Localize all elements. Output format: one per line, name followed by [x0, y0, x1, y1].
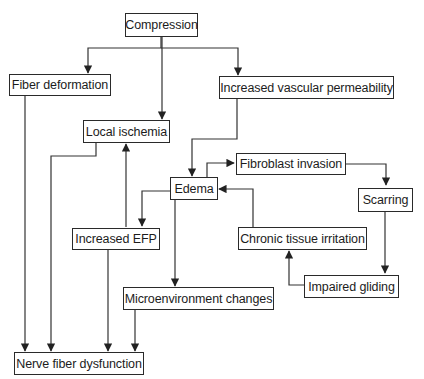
- edge-edema-increased-efp: [142, 191, 170, 226]
- node-fiber-deformation: Fiber deformation: [9, 74, 111, 96]
- edge-compression-vascular-permeability: [161, 48, 238, 75]
- edge-compression-fiber-deformation: [88, 36, 161, 73]
- node-increased-efp: Increased EFP: [72, 228, 160, 250]
- node-fibroblast-invasion: Fibroblast invasion: [236, 153, 346, 175]
- edge-chronic-irritation-edema: [219, 189, 253, 227]
- node-label: Chronic tissue irritation: [240, 232, 365, 246]
- edge-vascular-permeability-edema: [192, 98, 237, 176]
- node-chronic-tissue-irritation: Chronic tissue irritation: [238, 227, 367, 250]
- node-label: Fiber deformation: [12, 78, 108, 92]
- node-label: Increased vascular permeability: [220, 81, 393, 95]
- node-label: Scarring: [363, 193, 409, 207]
- edge-edema-fibroblast-invasion: [207, 163, 234, 177]
- node-label: Fibroblast invasion: [240, 157, 342, 171]
- node-label: Increased EFP: [75, 232, 156, 246]
- edge-fibroblast-scarring: [345, 164, 386, 185]
- node-local-ischemia: Local ischemia: [83, 120, 170, 143]
- node-nerve-fiber-dysfunction: Nerve fiber dysfunction: [14, 352, 144, 375]
- node-edema: Edema: [170, 177, 218, 200]
- node-label: Compression: [125, 18, 198, 32]
- edge-impaired-gliding-chronic-irritation: [289, 251, 304, 285]
- node-impaired-gliding: Impaired gliding: [304, 275, 399, 298]
- node-label: Impaired gliding: [308, 280, 395, 294]
- node-label: Microenvironment changes: [125, 292, 273, 306]
- node-label: Nerve fiber dysfunction: [16, 357, 142, 371]
- node-scarring: Scarring: [358, 188, 413, 212]
- node-increased-vascular-permeability: Increased vascular permeability: [219, 76, 394, 99]
- node-compression: Compression: [125, 13, 198, 37]
- node-label: Edema: [174, 182, 213, 196]
- node-microenvironment-changes: Microenvironment changes: [123, 287, 274, 310]
- node-label: Local ischemia: [86, 125, 167, 139]
- flowchart-canvas: Compression Fiber deformation Increased …: [0, 0, 424, 379]
